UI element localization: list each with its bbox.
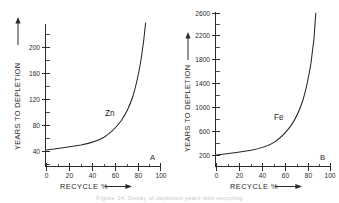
y-tick-label: 40: [33, 148, 41, 155]
y-tick-label: 200: [199, 152, 210, 159]
y-tick-label: 1400: [195, 80, 210, 87]
y-tick-label: 600: [199, 128, 210, 135]
chart-panel-b: YEARS TO DEPLETION 200 600 1000: [166, 0, 336, 203]
x-tick-label: 80: [305, 172, 313, 179]
x-tick-label: 0: [215, 172, 219, 179]
data-curve-zn: [47, 23, 146, 150]
series-label-zn: Zn: [105, 109, 115, 118]
y-axis-label-a: YEARS TO DEPLETION: [13, 63, 22, 150]
panel-label-a: A: [150, 153, 156, 162]
y-tick-label: 2200: [195, 32, 210, 39]
y-tick-label: 120: [29, 96, 40, 103]
series-label-fe: Fe: [274, 113, 284, 122]
x-tick-label: 60: [112, 172, 120, 179]
x-tick-label: 0: [45, 172, 49, 179]
x-tick-label: 60: [282, 172, 290, 179]
y-axis-label-b: YEARS TO DEPLETION: [183, 65, 192, 152]
y-tick-label: 1000: [195, 104, 210, 111]
y-axis-arrow-a: [15, 17, 20, 45]
x-axis-label-a: RECYCLE %: [60, 182, 108, 191]
x-axis-arrow-b: [275, 184, 302, 189]
x-axis-label-b: RECYCLE %: [230, 182, 278, 191]
figure-caption: Figure 14. Decay of depletion years with…: [0, 193, 339, 203]
x-tick-label: 100: [324, 172, 335, 179]
figure-container: YEARS TO DEPLETION 40 80 120 160: [0, 0, 339, 203]
x-tick-label: 40: [259, 172, 267, 179]
x-tick-label: 80: [135, 172, 143, 179]
x-tick-label: 20: [66, 172, 74, 179]
y-tick-label: 200: [29, 44, 40, 51]
chart-panel-a: YEARS TO DEPLETION 40 80 120 160: [0, 0, 170, 203]
x-tick-label: 40: [89, 172, 97, 179]
y-tick-label: 160: [29, 70, 40, 77]
y-axis-arrow-b: [185, 32, 190, 60]
y-tick-label: 80: [33, 122, 41, 129]
y-tick-label: 2600: [195, 10, 210, 17]
data-curve-fe: [217, 13, 316, 155]
x-axis-arrow-a: [105, 184, 132, 189]
y-tick-label: 1800: [195, 56, 210, 63]
panel-label-b: B: [320, 153, 325, 162]
x-tick-label: 20: [236, 172, 244, 179]
